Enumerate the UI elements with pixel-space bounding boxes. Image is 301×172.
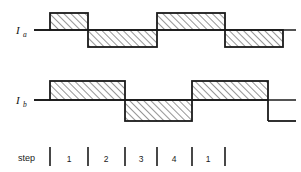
step-number-4: 4 <box>172 154 177 164</box>
waveform-ib-pulse-high-1 <box>50 81 125 100</box>
waveform-ia-label-subscript: a <box>23 30 27 39</box>
step-number-5: 1 <box>206 154 211 164</box>
waveform-ib-pulse-high-2 <box>192 81 268 100</box>
step-number-3: 3 <box>139 154 144 164</box>
waveform-ia-pulse-low-2 <box>225 30 283 47</box>
step-number-2: 2 <box>104 154 109 164</box>
step-number-1: 1 <box>67 154 72 164</box>
step-axis-label: step <box>18 153 35 163</box>
waveform-ia-pulse-low-1 <box>88 30 157 47</box>
waveform-figure: I a I b <box>0 0 301 172</box>
waveform-svg: I a I b <box>0 0 301 172</box>
waveform-ib-label-subscript: b <box>23 100 27 109</box>
waveform-ia-pulse-high-1 <box>50 13 88 30</box>
waveform-ia-pulse-high-2 <box>157 13 225 30</box>
waveform-ib-pulse-low-1 <box>125 100 192 121</box>
